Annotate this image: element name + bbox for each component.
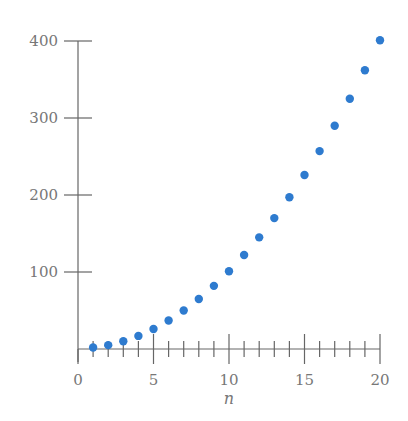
axes — [64, 41, 380, 364]
y-tick-label: 300 — [29, 109, 58, 127]
x-tick-label: 15 — [295, 371, 314, 389]
scatter-chart: 10020030040005101520 n — [0, 0, 408, 421]
data-points — [89, 36, 384, 352]
data-point — [240, 251, 248, 259]
x-tick-label: 10 — [219, 371, 238, 389]
tick-labels: 10020030040005101520 — [29, 32, 389, 389]
data-point — [225, 267, 233, 275]
data-point — [315, 147, 323, 155]
y-tick-label: 200 — [29, 186, 58, 204]
x-tick-label: 5 — [149, 371, 159, 389]
data-point — [210, 282, 218, 290]
data-point — [270, 214, 278, 222]
data-point — [180, 306, 188, 314]
data-point — [285, 193, 293, 201]
data-point — [300, 171, 308, 179]
data-point — [376, 36, 384, 44]
x-tick-label: 0 — [73, 371, 83, 389]
data-point — [134, 332, 142, 340]
data-point — [119, 337, 127, 345]
y-tick-label: 100 — [29, 263, 58, 281]
data-point — [346, 95, 354, 103]
x-tick-label: 20 — [370, 371, 389, 389]
data-point — [255, 233, 263, 241]
y-tick-label: 400 — [29, 32, 58, 50]
data-point — [149, 325, 157, 333]
data-point — [89, 343, 97, 351]
data-point — [331, 122, 339, 130]
x-axis-label: n — [224, 389, 234, 408]
data-point — [361, 66, 369, 74]
data-point — [195, 295, 203, 303]
data-point — [164, 316, 172, 324]
data-point — [104, 341, 112, 349]
